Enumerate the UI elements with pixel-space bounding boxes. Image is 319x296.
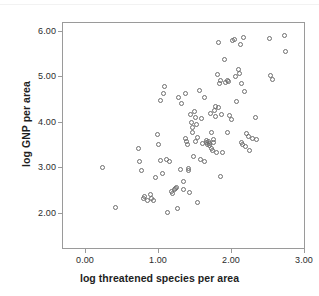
data-point — [283, 49, 288, 54]
plot-area — [62, 22, 305, 249]
x-tick-mark-1 — [158, 249, 159, 253]
data-point — [175, 206, 180, 211]
y-axis-title: log GNP per area — [20, 54, 32, 194]
data-point — [179, 101, 184, 106]
data-point — [178, 167, 183, 172]
data-point — [242, 89, 247, 94]
x-tick-label-2: 2.00 — [211, 255, 251, 265]
data-point — [193, 115, 198, 120]
data-point — [253, 115, 258, 120]
data-point — [209, 130, 214, 135]
data-point — [254, 137, 259, 142]
data-point — [216, 40, 221, 45]
x-axis-title: log threatened species per area — [0, 272, 319, 284]
data-point — [215, 72, 220, 77]
data-point — [174, 185, 179, 190]
data-point — [176, 95, 181, 100]
data-point — [191, 154, 196, 159]
data-point — [158, 158, 163, 163]
data-point — [247, 148, 252, 153]
data-point — [100, 165, 105, 170]
data-point — [194, 122, 199, 127]
data-point — [222, 57, 227, 62]
data-point — [202, 159, 207, 164]
data-point — [153, 175, 158, 180]
top-edge-artifact — [0, 4, 319, 5]
data-point — [267, 36, 272, 41]
data-point — [226, 79, 231, 84]
data-point — [270, 77, 275, 82]
data-point — [183, 91, 188, 96]
data-point — [214, 150, 219, 155]
x-tick-mark-0 — [85, 249, 86, 253]
data-point — [160, 171, 165, 176]
data-point — [232, 37, 237, 42]
y-tick-label-5: 5.00 — [38, 71, 56, 81]
data-point — [219, 112, 224, 117]
data-point — [185, 142, 190, 147]
y-tick-label-4: 4.00 — [38, 117, 56, 127]
data-point — [220, 150, 225, 155]
data-point — [218, 174, 223, 179]
data-point — [229, 117, 234, 122]
data-point — [216, 105, 221, 110]
data-point — [234, 99, 239, 104]
data-point — [282, 33, 287, 38]
x-tick-label-3: 3.00 — [284, 255, 319, 265]
x-tick-mark-3 — [304, 249, 305, 253]
data-point — [151, 198, 156, 203]
data-point — [195, 200, 200, 205]
data-point — [156, 142, 161, 147]
data-point — [202, 95, 207, 100]
data-point — [165, 210, 170, 215]
data-point — [186, 168, 191, 173]
data-point — [213, 114, 218, 119]
data-point — [181, 179, 186, 184]
data-point — [136, 146, 141, 151]
data-point — [167, 159, 172, 164]
data-point — [192, 109, 197, 114]
y-tick-label-6: 6.00 — [38, 26, 56, 36]
data-point — [187, 190, 192, 195]
data-point — [190, 130, 195, 135]
data-point — [181, 187, 186, 192]
data-point — [139, 168, 144, 173]
x-tick-label-1: 1.00 — [138, 255, 178, 265]
data-point — [238, 42, 243, 47]
y-tick-label-2: 2.00 — [38, 208, 56, 218]
data-point — [195, 135, 200, 140]
data-point — [162, 84, 167, 89]
data-point — [113, 205, 118, 210]
data-point — [161, 91, 166, 96]
data-point — [241, 35, 246, 40]
x-tick-label-0: 0.00 — [65, 255, 105, 265]
data-points-layer — [63, 23, 304, 248]
data-point — [237, 71, 242, 76]
data-point — [225, 130, 230, 135]
data-point — [158, 98, 163, 103]
scatter-chart: 6.00 5.00 4.00 3.00 2.00 0.00 1.00 2.00 … — [0, 0, 319, 296]
data-point — [199, 116, 204, 121]
data-point — [155, 132, 160, 137]
data-point — [137, 159, 142, 164]
x-tick-mark-2 — [231, 249, 232, 253]
y-tick-label-3: 3.00 — [38, 162, 56, 172]
data-point — [197, 88, 202, 93]
data-point — [239, 81, 244, 86]
